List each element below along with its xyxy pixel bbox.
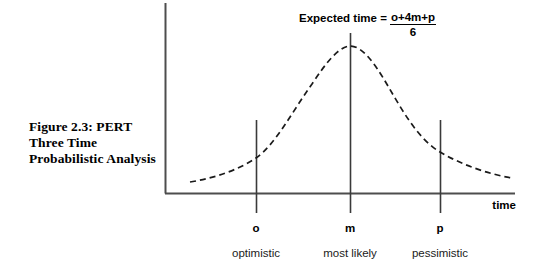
tick-letter-pessimistic: p xyxy=(420,222,460,234)
tick-letter-optimistic: o xyxy=(236,222,276,234)
pert-figure: Figure 2.3: PERT Three Time Probabilisti… xyxy=(0,0,552,279)
tick-word-most-likely: most likely xyxy=(300,247,400,259)
caption-line-1: Figure 2.3: PERT xyxy=(29,119,169,135)
expected-time-formula: Expected time = o+4m+p 6 xyxy=(299,11,436,39)
tick-word-optimistic: optimistic xyxy=(206,247,306,259)
formula-fraction: o+4m+p 6 xyxy=(390,11,436,39)
formula-denominator: 6 xyxy=(410,25,416,39)
caption-line-2: Three Time xyxy=(29,135,169,151)
x-axis-label: time xyxy=(462,199,516,211)
figure-caption: Figure 2.3: PERT Three Time Probabilisti… xyxy=(29,119,169,167)
tick-letter-most-likely: m xyxy=(330,222,370,234)
tick-word-pessimistic: pessimistic xyxy=(390,247,490,259)
formula-numerator: o+4m+p xyxy=(390,11,436,25)
formula-label: Expected time = xyxy=(299,11,387,24)
caption-line-3: Probabilistic Analysis xyxy=(29,151,169,167)
